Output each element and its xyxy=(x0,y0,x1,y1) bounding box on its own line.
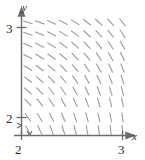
slope-segment xyxy=(120,30,125,38)
slope-segment xyxy=(121,75,124,84)
slope-segment xyxy=(62,126,65,135)
slope-segment xyxy=(73,98,77,106)
slope-segment xyxy=(60,31,68,36)
axes-group xyxy=(14,8,134,140)
slope-segment xyxy=(120,41,124,49)
slope-segment xyxy=(37,113,42,121)
slope-segment xyxy=(72,53,78,59)
slope-segment xyxy=(86,113,88,122)
slope-segment xyxy=(24,43,32,47)
slope-segment xyxy=(50,126,53,134)
x-tick-label-3: 3 xyxy=(118,143,125,156)
slope-segment xyxy=(60,43,67,48)
slope-segment xyxy=(108,53,112,61)
slope-segment xyxy=(74,113,77,122)
slope-segment xyxy=(98,125,99,134)
slope-segment xyxy=(83,20,90,25)
slope-segment xyxy=(110,113,111,122)
slope-segment xyxy=(109,75,112,83)
slope-segment xyxy=(96,42,102,49)
slope-segment xyxy=(97,64,101,72)
slope-segment xyxy=(108,19,114,26)
slope-segment xyxy=(121,87,123,96)
slope-segment xyxy=(109,64,113,72)
slope-segment xyxy=(73,87,77,95)
slope-segment xyxy=(72,65,78,72)
slope-segment xyxy=(24,66,32,71)
x-tick-label-2: 2 xyxy=(15,143,22,156)
slope-segment xyxy=(96,19,103,25)
slope-segment xyxy=(49,88,55,95)
slope-segment xyxy=(59,20,67,24)
slope-segment xyxy=(24,21,33,24)
slope-segment xyxy=(60,65,66,71)
slope-segment xyxy=(48,43,56,48)
slope-segment xyxy=(36,43,44,47)
slope-segment xyxy=(24,55,32,59)
slope-segment xyxy=(62,113,65,121)
slope-segment xyxy=(85,76,89,84)
slope-segment xyxy=(84,31,91,37)
slope-segment xyxy=(49,113,53,121)
slope-segment xyxy=(85,98,88,106)
slope-segment xyxy=(35,21,43,24)
slope-segment xyxy=(60,76,66,83)
slope-segment xyxy=(85,87,89,95)
slope-segment xyxy=(108,30,114,37)
slope-segment xyxy=(48,32,56,36)
slope-segment xyxy=(72,42,79,48)
slope-segment xyxy=(37,99,43,106)
slope-segment xyxy=(121,53,125,61)
slope-segment xyxy=(84,64,89,71)
y-axis-label: y xyxy=(22,2,27,13)
slope-segment xyxy=(36,77,43,83)
slope-segment xyxy=(73,76,78,83)
slope-segment xyxy=(84,42,90,49)
slope-segment xyxy=(71,20,79,25)
slope-segment xyxy=(24,32,32,35)
slope-segment xyxy=(24,77,31,82)
x-axis-label: x xyxy=(132,131,137,142)
slope-segment xyxy=(110,125,111,134)
slope-segment xyxy=(24,88,31,94)
y-tick-label-2: 2 xyxy=(6,112,13,125)
slope-segment xyxy=(25,99,31,106)
slope-segment xyxy=(110,98,112,107)
slope-segment xyxy=(96,53,101,60)
slope-segment xyxy=(97,75,101,83)
slope-segment xyxy=(86,126,88,135)
slope-segment xyxy=(122,98,124,107)
y-tick-label-3: 3 xyxy=(6,22,13,35)
plot-canvas xyxy=(0,0,145,160)
slope-segment xyxy=(98,98,101,107)
slope-segment xyxy=(38,126,42,134)
slope-segment xyxy=(48,54,55,59)
slope-field-segments xyxy=(24,19,126,135)
slope-segment xyxy=(37,88,43,94)
slope-segment xyxy=(120,19,125,26)
slope-segment xyxy=(122,113,123,122)
slope-segment xyxy=(72,31,79,36)
slope-segment xyxy=(109,87,112,96)
slope-segment xyxy=(61,99,65,107)
slope-segment xyxy=(98,113,100,122)
slope-segment xyxy=(97,87,100,95)
slope-segment xyxy=(49,99,54,107)
slope-segment xyxy=(36,54,44,59)
slope-segment xyxy=(96,30,102,37)
slope-segment xyxy=(48,76,54,82)
slope-segment xyxy=(36,65,43,70)
slope-segment xyxy=(74,126,76,135)
slope-segment xyxy=(61,87,66,94)
slope-segment xyxy=(36,32,44,36)
slope-field-figure: y x 3 2 2 3 xyxy=(0,0,145,160)
slope-segment xyxy=(60,54,67,60)
slope-segment xyxy=(108,41,113,49)
slope-segment xyxy=(84,53,90,60)
slope-segment xyxy=(121,64,124,72)
slope-segment xyxy=(47,20,55,24)
slope-segment xyxy=(48,65,55,71)
